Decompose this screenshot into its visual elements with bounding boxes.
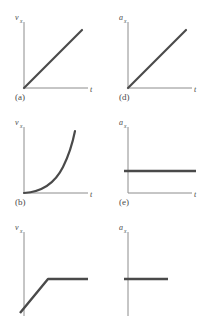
x-axis-label: t xyxy=(90,85,93,94)
data-curve xyxy=(24,30,82,88)
y-axis-label: a xyxy=(119,223,123,232)
panel-c: v x xyxy=(0,210,104,316)
panel-b: v x t (b) xyxy=(0,105,104,210)
plot-e: a x t xyxy=(104,105,208,210)
x-axis-label: t xyxy=(194,85,197,94)
data-curve xyxy=(24,131,75,193)
y-axis-label: v xyxy=(15,223,19,232)
plot-f: a x xyxy=(104,210,208,316)
y-axis-subscript: x xyxy=(123,228,127,234)
y-axis-subscript: x xyxy=(19,18,23,24)
panel-a: v x t (a) xyxy=(0,0,104,105)
data-curve xyxy=(20,279,88,313)
panel-label-b: (b) xyxy=(15,197,26,207)
plot-b: v x t xyxy=(0,105,104,210)
y-axis-subscript: x xyxy=(19,123,23,129)
y-axis-label: a xyxy=(119,118,123,127)
panel-d: a x t (d) xyxy=(104,0,208,105)
x-axis-label: t xyxy=(90,190,93,199)
data-curve xyxy=(128,30,186,88)
plot-a: v x t xyxy=(0,0,104,105)
plot-d: a x t xyxy=(104,0,208,105)
panel-label-d: (d) xyxy=(119,92,130,102)
panel-e: a x t (e) xyxy=(104,105,208,210)
panel-label-a: (a) xyxy=(15,92,25,102)
panel-label-e: (e) xyxy=(119,197,129,207)
x-axis-label: t xyxy=(194,190,197,199)
y-axis-label: v xyxy=(15,13,19,22)
plot-c: v x xyxy=(0,210,104,316)
y-axis-subscript: x xyxy=(123,123,127,129)
y-axis-subscript: x xyxy=(19,228,23,234)
y-axis-label: v xyxy=(15,118,19,127)
y-axis-label: a xyxy=(119,13,123,22)
y-axis-subscript: x xyxy=(123,18,127,24)
panel-f: a x xyxy=(104,210,208,316)
figure-grid: v x t (a) a x t (d) v x t (b) xyxy=(0,0,208,316)
